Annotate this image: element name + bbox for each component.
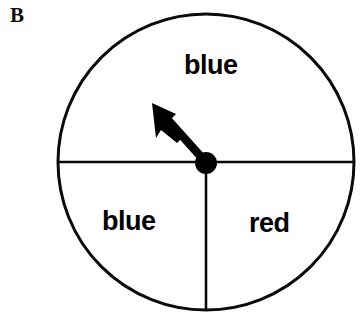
spinner-center-hub	[195, 152, 217, 174]
sector-label-bottom-right: red	[249, 210, 290, 237]
spinner-figure: B blue blue red	[0, 0, 360, 323]
sector-label-top: blue	[184, 52, 238, 79]
sector-label-bottom-left: blue	[102, 208, 156, 235]
spinner-graphic	[0, 0, 360, 323]
